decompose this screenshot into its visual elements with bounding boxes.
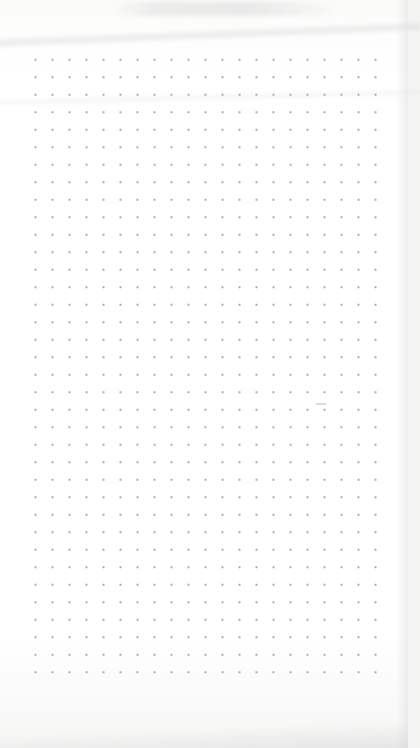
page-curve-shadow — [0, 24, 420, 47]
show-through-text — [110, 2, 340, 16]
bottom-edge-shadow — [0, 708, 408, 748]
right-edge-shadow — [396, 0, 408, 748]
faint-mark — [316, 403, 326, 405]
dot-grid — [27, 51, 389, 687]
